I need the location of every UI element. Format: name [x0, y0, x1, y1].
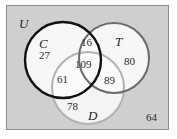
label-set-d: D: [88, 109, 97, 122]
count-c-only: 27: [39, 50, 50, 61]
venn-diagram-figure: U C T D 27 16 80 61 109 89 78 64: [0, 0, 177, 139]
label-set-t: T: [115, 35, 122, 48]
count-t-only: 80: [124, 56, 135, 67]
count-c-and-t: 16: [81, 37, 92, 48]
count-outside-sets: 64: [146, 112, 157, 123]
count-c-and-d: 61: [57, 74, 68, 85]
label-universe: U: [19, 17, 28, 30]
count-c-and-t-and-d: 109: [75, 59, 92, 70]
count-d-only: 78: [67, 101, 78, 112]
count-t-and-d: 89: [104, 75, 115, 86]
